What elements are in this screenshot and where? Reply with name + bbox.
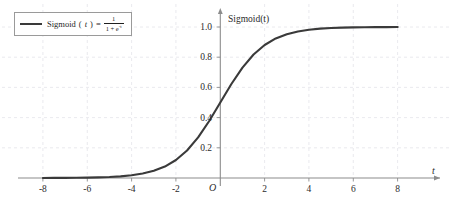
y-tick-label: 0.4 [186,113,212,123]
legend-variable: t [85,19,87,29]
origin-label: O [209,182,216,193]
denominator-exponent: -t [119,24,122,29]
x-tick-label: -6 [83,184,91,194]
y-axis-ticks [217,27,221,148]
y-axis-label: Sigmoid(t) [228,14,269,24]
x-tick-label: 6 [351,184,356,194]
y-tick-label: 0.8 [186,52,212,62]
x-tick-label: -4 [128,184,136,194]
legend-fraction: 1 1 + e-t [104,16,124,32]
denominator-base: 1 + e [106,25,119,32]
x-tick-label: 8 [395,184,400,194]
y-tick-label: 1.0 [186,22,212,32]
x-tick-label: 2 [262,184,267,194]
y-tick-label: 0.6 [186,82,212,92]
y-tick-label: 0.2 [186,143,212,153]
legend-line-swatch [20,23,42,25]
x-axis-label: t [432,165,435,176]
x-tick-label: -2 [172,184,180,194]
fraction-numerator: 1 [110,16,117,23]
y-axis [217,8,223,186]
legend-function-name: Sigmoid [47,19,76,29]
x-tick-label: -8 [39,184,47,194]
legend-entry-label: Sigmoid(t) = 1 1 + e-t [47,16,124,32]
fraction-denominator: 1 + e-t [104,25,124,33]
legend-equals: = [96,19,101,29]
sigmoid-chart-figure: -8 -6 -4 -2 2 4 6 8 O 0.2 0.4 0.6 0.8 1.… [0,0,454,216]
chart-legend[interactable]: Sigmoid(t) = 1 1 + e-t [14,12,132,36]
x-tick-label: 4 [307,184,312,194]
